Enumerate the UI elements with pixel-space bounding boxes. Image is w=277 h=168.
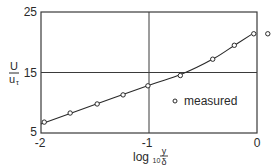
x-label-log: log [133, 150, 149, 164]
data-point-marker [252, 32, 256, 36]
y-label-denominator: u [9, 73, 15, 85]
x-label-subscript: 10 [153, 157, 161, 164]
data-point-marker [42, 120, 46, 124]
data-point-marker [232, 43, 236, 47]
y-axis-label: U u τ [9, 60, 19, 86]
fit-line [41, 34, 252, 124]
x-tick-0: 0 [254, 136, 261, 150]
data-point-marker [121, 93, 125, 97]
data-point-marker [211, 57, 215, 61]
x-tick-minus2: -2 [35, 136, 46, 150]
chart: 25 15 5 -2 -1 0 U u τ log 10 y δ measure… [0, 0, 277, 168]
measured-markers [42, 32, 270, 125]
x-label-numerator: y [162, 146, 167, 156]
data-point-marker [95, 102, 99, 106]
x-tick-minus1: -1 [142, 136, 153, 150]
data-point-marker [146, 84, 150, 88]
legend: measured [173, 94, 237, 108]
legend-marker-icon [173, 99, 177, 103]
y-tick-25: 25 [24, 5, 38, 19]
y-label-numerator: U [10, 60, 18, 72]
data-point-marker [68, 111, 72, 115]
data-point-marker [266, 32, 270, 36]
y-label-subscript: τ [16, 79, 19, 86]
data-point-marker [178, 73, 182, 77]
y-tick-15: 15 [24, 66, 38, 80]
x-label-denominator: δ [161, 157, 166, 167]
legend-label-measured: measured [184, 94, 237, 108]
